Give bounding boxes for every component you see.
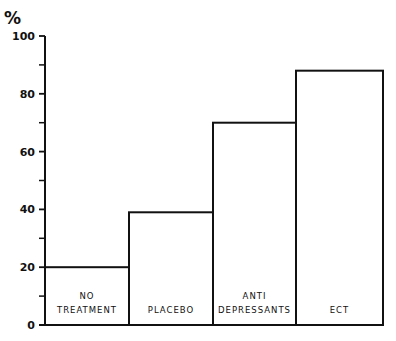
y-axis-unit-label: % (4, 8, 21, 28)
category-label: PLACEBO (148, 305, 194, 315)
category-label: TREATMENT (56, 305, 117, 315)
y-tick-label: 40 (20, 203, 36, 216)
bar (296, 71, 383, 325)
y-tick-label: 100 (12, 30, 35, 43)
y-tick-label: 0 (27, 319, 35, 332)
y-tick-label: 20 (20, 261, 36, 274)
bar-chart: % 020406080100 NOTREATMENTPLACEBOANTIDEP… (0, 0, 396, 341)
bars (45, 71, 383, 325)
category-label: ECT (330, 305, 350, 315)
category-label: ANTI (243, 291, 267, 301)
category-label: DEPRESSANTS (218, 305, 291, 315)
y-tick-label: 60 (20, 146, 36, 159)
category-label: NO (79, 291, 94, 301)
y-tick-label: 80 (20, 88, 36, 101)
